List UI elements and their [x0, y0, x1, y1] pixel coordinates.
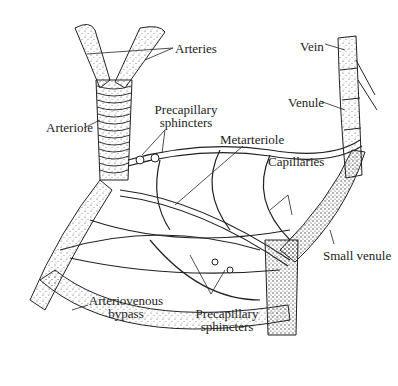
label-precapillary-sphincters-top-line2: sphincters — [143, 116, 229, 129]
label-capillaries: Capillaries — [268, 155, 324, 168]
label-precapillary-sphincters-bottom-line2: sphincters — [184, 320, 270, 333]
label-arteriovenous-bypass-line2: bypass — [78, 307, 174, 320]
small-venule-leader — [330, 230, 334, 244]
arteries-vessel — [75, 24, 165, 88]
precapillary-sphincter-marks — [136, 154, 233, 273]
arteriole-vessel — [96, 80, 132, 180]
label-venule: Venule — [288, 96, 324, 109]
label-small-venule: Small venule — [323, 249, 391, 262]
precapillary-top-leader — [162, 130, 165, 153]
label-vein: Vein — [300, 40, 324, 53]
vein-vessel — [338, 36, 377, 178]
label-arteriole: Arteriole — [46, 121, 93, 134]
label-metarteriole: Metarteriole — [220, 133, 284, 146]
capillaries-leader — [288, 195, 292, 215]
label-arteries: Arteries — [175, 42, 217, 55]
